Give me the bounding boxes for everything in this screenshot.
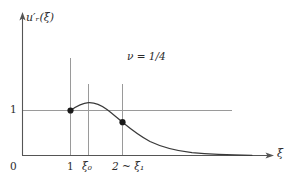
tick-label-y-one: 1 [10,104,17,115]
tick-label-origin: 0 [10,161,17,172]
plot-canvas [0,0,292,186]
data-point-xi-one-sub [119,119,125,125]
x-axis-label: ξ [277,148,283,159]
tick-label-xi-zero: ξ₀ [82,161,92,172]
nu-parameter-annotation: ν = 1/4 [127,51,166,62]
tick-label-x-one: 1 [67,161,74,172]
tick-label-xi-one-sub: 2 ~ ξ₁ [112,161,144,172]
data-point-xi-one [67,107,73,113]
y-axis-label: u′ᵣ(ξ) [26,12,54,23]
plot-figure: u′ᵣ(ξ) ξ ν = 1/4 0 1 ξ₀ 2 ~ ξ₁ 1 [0,0,292,186]
